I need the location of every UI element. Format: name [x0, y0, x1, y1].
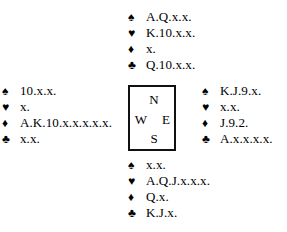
- diamond-icon: ♦: [128, 41, 141, 57]
- heart-icon: ♥: [128, 173, 141, 189]
- club-icon: ♣: [202, 131, 215, 147]
- hand-west-diamonds-row: ♦ A.K.10.x.x.x.x.x.: [2, 115, 112, 131]
- compass-label-west: W: [134, 113, 148, 127]
- hand-north: ♠ A.Q.x.x. ♥ K.10.x.x. ♦ x. ♣ Q.10.x.x.: [128, 9, 195, 73]
- hand-west-clubs-row: ♣ x.x.: [2, 131, 112, 147]
- club-icon: ♣: [128, 57, 141, 73]
- hand-west-spades-row: ♠ 10.x.x.: [2, 83, 112, 99]
- hand-east: ♠ K.J.9.x. ♥ x.x. ♦ J.9.2. ♣ A.x.x.x.x.: [202, 83, 273, 147]
- hand-east-hearts: x.x.: [215, 99, 240, 115]
- hand-south-spades-row: ♠ x.x.: [128, 157, 210, 173]
- compass-label-east: E: [159, 113, 173, 127]
- club-icon: ♣: [2, 131, 15, 147]
- heart-icon: ♥: [128, 25, 141, 41]
- spade-icon: ♠: [128, 9, 141, 25]
- hand-east-clubs: A.x.x.x.x.: [215, 131, 273, 147]
- hand-south: ♠ x.x. ♥ A.Q.J.x.x.x. ♦ Q.x. ♣ K.J.x.: [128, 157, 210, 221]
- hand-north-spades-row: ♠ A.Q.x.x.: [128, 9, 195, 25]
- hand-north-hearts: K.10.x.x.: [141, 25, 195, 41]
- hand-west-spades: 10.x.x.: [15, 83, 56, 99]
- hand-east-clubs-row: ♣ A.x.x.x.x.: [202, 131, 273, 147]
- compass-label-south: S: [147, 132, 161, 146]
- hand-west-hearts: x.: [15, 99, 30, 115]
- spade-icon: ♠: [202, 83, 215, 99]
- hand-east-diamonds-row: ♦ J.9.2.: [202, 115, 273, 131]
- hand-north-clubs-row: ♣ Q.10.x.x.: [128, 57, 195, 73]
- hand-north-hearts-row: ♥ K.10.x.x.: [128, 25, 195, 41]
- hand-north-spades: A.Q.x.x.: [141, 9, 192, 25]
- hand-east-spades: K.J.9.x.: [215, 83, 261, 99]
- hand-north-clubs: Q.10.x.x.: [141, 57, 195, 73]
- hand-west: ♠ 10.x.x. ♥ x. ♦ A.K.10.x.x.x.x.x. ♣ x.x…: [2, 83, 112, 147]
- hand-east-diamonds: J.9.2.: [215, 115, 248, 131]
- heart-icon: ♥: [202, 99, 215, 115]
- bridge-deal-diagram: ♠ A.Q.x.x. ♥ K.10.x.x. ♦ x. ♣ Q.10.x.x. …: [0, 0, 287, 232]
- compass-box: N W E S: [128, 85, 176, 151]
- hand-west-hearts-row: ♥ x.: [2, 99, 112, 115]
- diamond-icon: ♦: [128, 189, 141, 205]
- hand-south-diamonds-row: ♦ Q.x.: [128, 189, 210, 205]
- hand-south-clubs: K.J.x.: [141, 205, 177, 221]
- spade-icon: ♠: [2, 83, 15, 99]
- hand-west-diamonds: A.K.10.x.x.x.x.x.: [15, 115, 112, 131]
- heart-icon: ♥: [2, 99, 15, 115]
- hand-north-diamonds-row: ♦ x.: [128, 41, 195, 57]
- hand-north-diamonds: x.: [141, 41, 156, 57]
- hand-south-hearts-row: ♥ A.Q.J.x.x.x.: [128, 173, 210, 189]
- hand-south-diamonds: Q.x.: [141, 189, 169, 205]
- diamond-icon: ♦: [2, 115, 15, 131]
- spade-icon: ♠: [128, 157, 141, 173]
- club-icon: ♣: [128, 205, 141, 221]
- hand-east-spades-row: ♠ K.J.9.x.: [202, 83, 273, 99]
- hand-south-spades: x.x.: [141, 157, 166, 173]
- hand-south-clubs-row: ♣ K.J.x.: [128, 205, 210, 221]
- hand-west-clubs: x.x.: [15, 131, 40, 147]
- compass-label-north: N: [147, 93, 161, 107]
- hand-east-hearts-row: ♥ x.x.: [202, 99, 273, 115]
- diamond-icon: ♦: [202, 115, 215, 131]
- hand-south-hearts: A.Q.J.x.x.x.: [141, 173, 210, 189]
